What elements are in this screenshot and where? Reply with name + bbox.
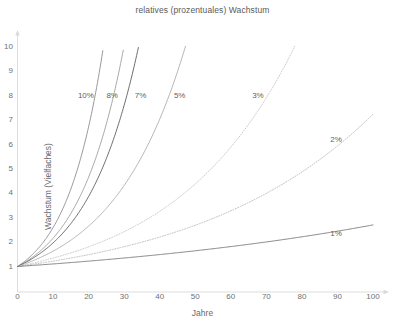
y-tick-label: 9 (0, 66, 13, 75)
x-tick-label: 0 (3, 292, 33, 301)
y-tick-label: 6 (0, 140, 13, 149)
x-tick-label: 30 (109, 292, 139, 301)
curve-label-1pct: 1% (330, 229, 342, 238)
y-tick-label: 2 (0, 237, 13, 246)
x-tick-label: 70 (251, 292, 281, 301)
curve-1pct (18, 225, 374, 267)
y-axis-arrow-icon (15, 30, 19, 36)
plot-area (0, 0, 405, 330)
curve-10pct (18, 51, 103, 267)
curve-label-10pct: 10% (78, 91, 94, 100)
x-tick-label: 20 (74, 292, 104, 301)
curve-label-8pct: 8% (106, 91, 118, 100)
axes-group (15, 30, 389, 294)
y-tick-label: 1 (0, 262, 13, 271)
curve-label-5pct: 5% (174, 91, 186, 100)
y-tick-label: 7 (0, 115, 13, 124)
x-tick-label: 100 (358, 292, 388, 301)
y-tick-label: 4 (0, 188, 13, 197)
x-tick-label: 10 (38, 292, 68, 301)
curve-7pct (18, 48, 139, 267)
chart-canvas: relatives (prozentuales) Wachstum 010203… (0, 0, 405, 330)
y-axis-title: Wachstum (Vielfaches) (43, 143, 53, 230)
curve-2pct (18, 114, 374, 266)
x-tick-label: 60 (216, 292, 246, 301)
x-tick-label: 50 (180, 292, 210, 301)
y-tick-label: 3 (0, 213, 13, 222)
curve-label-3pct: 3% (252, 91, 264, 100)
curve-label-7pct: 7% (135, 91, 147, 100)
y-tick-label: 8 (0, 91, 13, 100)
y-tick-label: 5 (0, 164, 13, 173)
curve-label-2pct: 2% (330, 135, 342, 144)
curve-3pct (18, 46, 295, 266)
curve-8pct (18, 50, 124, 266)
x-tick-label: 90 (322, 292, 352, 301)
x-tick-label: 40 (145, 292, 175, 301)
curves-group (18, 46, 374, 266)
x-axis-title: Jahre (0, 308, 405, 318)
y-tick-label: 10 (0, 42, 13, 51)
x-tick-label: 80 (287, 292, 317, 301)
